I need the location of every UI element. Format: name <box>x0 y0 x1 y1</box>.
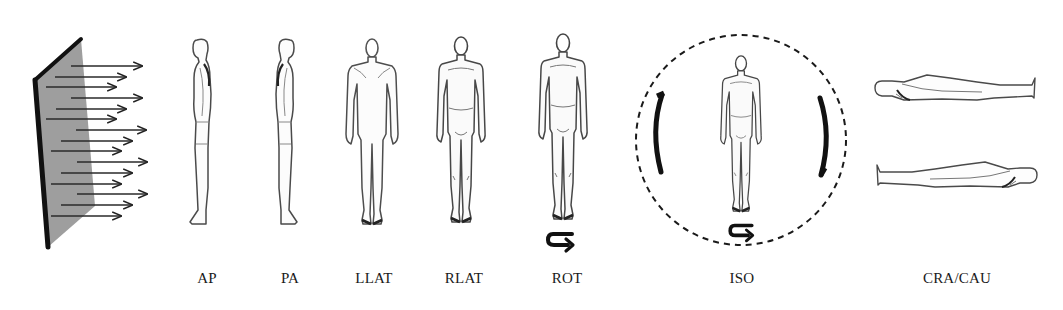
diagram-stage: AP PA LLAT RLAT ROT ISO CRA/CAU <box>0 0 1063 310</box>
rotation-arrow-icon <box>548 234 573 251</box>
figure-ap <box>190 39 211 224</box>
label-pa: PA <box>281 270 299 287</box>
diagram-canvas <box>0 0 1063 310</box>
label-rlat: RLAT <box>445 270 483 287</box>
label-llat: LLAT <box>355 270 392 287</box>
iso-group <box>636 35 846 245</box>
figure-rlat <box>437 37 485 222</box>
label-cra-cau: CRA/CAU <box>923 270 991 287</box>
figure-rot <box>539 34 587 219</box>
figure-cra <box>875 75 1035 100</box>
label-rot: ROT <box>552 270 583 287</box>
figure-pa <box>276 39 297 224</box>
figure-cau <box>877 162 1037 187</box>
right-rotation-arc-icon <box>820 98 826 175</box>
label-iso: ISO <box>730 270 755 287</box>
left-rotation-arc-icon <box>656 95 662 172</box>
figure-llat <box>346 39 398 224</box>
planar-source <box>35 39 147 247</box>
iso-rotation-arrow-icon <box>730 226 753 241</box>
label-ap: AP <box>197 270 217 287</box>
figure-iso <box>721 56 762 211</box>
